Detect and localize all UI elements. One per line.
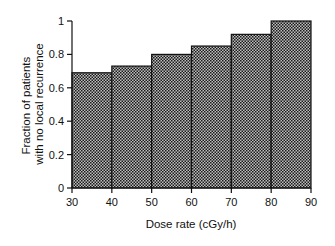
x-tick-label: 80 [265, 196, 277, 208]
y-axis: 00.20.40.60.81 [49, 15, 72, 194]
bar-30-40 [72, 73, 112, 188]
y-tick-label: 0.6 [49, 82, 64, 94]
y-tick-label: 0.8 [49, 48, 64, 60]
x-tick-label: 60 [185, 196, 197, 208]
bar-50-60 [152, 54, 192, 188]
x-tick-label: 30 [66, 196, 78, 208]
bars-group [72, 21, 311, 188]
x-axis: 30405060708090 [66, 188, 317, 208]
y-tick-label: 0.4 [49, 115, 64, 127]
bar-40-50 [112, 66, 152, 188]
y-axis-title-line-2: with no local recurrence [33, 43, 45, 165]
bar-60-70 [192, 46, 232, 188]
x-axis-title: Dose rate (cGy/h) [146, 218, 237, 230]
x-tick-label: 50 [146, 196, 158, 208]
x-tick-label: 40 [106, 196, 118, 208]
y-tick-label: 1 [58, 15, 64, 27]
x-tick-label: 70 [225, 196, 237, 208]
bar-70-80 [231, 34, 271, 188]
y-axis-title: Fraction of patients with no local recur… [20, 43, 45, 165]
histogram-chart: 00.20.40.60.81 30405060708090 Dose rate … [0, 0, 335, 246]
x-tick-label: 90 [305, 196, 317, 208]
y-tick-label: 0 [58, 182, 64, 194]
y-axis-title-line-1: Fraction of patients [20, 56, 32, 154]
y-tick-label: 0.2 [49, 149, 64, 161]
bar-80-90 [271, 21, 311, 188]
